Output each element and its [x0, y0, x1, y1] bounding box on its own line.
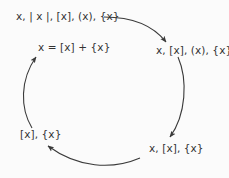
node-right: x, [x], (x), {x}: [156, 44, 229, 56]
arrow-bottom-left-to-center-left: [23, 57, 36, 128]
cycle-diagram: x, | x |, [x], (x), {x} x = [x] + {x} x,…: [0, 0, 229, 178]
node-top-left: x, | x |, [x], (x), {x}: [16, 10, 120, 22]
node-bottom-right: x, [x], {x}: [149, 142, 204, 154]
node-bottom-left: [x], {x}: [20, 128, 61, 140]
arrow-right-to-bottom-right: [170, 57, 184, 137]
node-center-left: x = [x] + {x}: [38, 41, 110, 53]
arrow-bottom-right-to-bottom-left: [48, 146, 140, 165]
